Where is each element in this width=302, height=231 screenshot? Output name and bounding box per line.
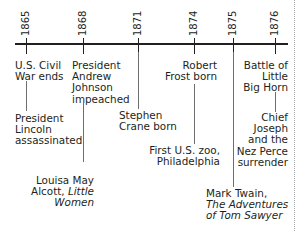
event-line: surrender (237, 157, 288, 168)
event-line: Philadelphia (149, 156, 220, 167)
event-line: of Tom Sawyer (206, 210, 288, 221)
event-lincoln-assassinated: President Lincoln assassinated (15, 113, 82, 147)
tick-1868 (83, 38, 84, 54)
event-johnson-impeached: President Andrew Johnson impeached (72, 60, 130, 105)
year-1865: 1865 (21, 11, 31, 36)
event-line: Women (31, 197, 94, 208)
event-line: Big Horn (243, 82, 288, 93)
event-line: War ends (15, 71, 64, 82)
event-twain-tom-sawyer: Mark Twain, The Adventures of Tom Sawyer (206, 188, 288, 222)
year-1868: 1868 (78, 11, 88, 36)
event-first-us-zoo: First U.S. zoo, Philadelphia (149, 145, 220, 167)
connector-1876 (275, 92, 276, 112)
connector-1871 (138, 52, 139, 109)
timeline-axis (15, 43, 288, 45)
dotted-border (294, 0, 295, 231)
event-line: impeached (72, 94, 130, 105)
event-line: and the (237, 134, 288, 145)
event-line: Johnson (72, 82, 130, 93)
event-chief-joseph-surrender: Chief Joseph and the Nez Perce surrender (237, 112, 288, 168)
event-line: Crane born (119, 121, 177, 132)
book-title: Little (68, 185, 94, 197)
book-title: The Adventures (206, 198, 288, 210)
connector-1875 (233, 52, 234, 187)
book-title: Women (54, 196, 94, 208)
connector-1868 (83, 103, 84, 162)
event-crane-born: Stephen Crane born (119, 110, 177, 132)
event-line: assassinated (15, 135, 82, 146)
tick-1876 (275, 38, 276, 54)
event-civil-war-ends: U.S. Civil War ends (15, 60, 64, 82)
event-text: Alcott, (31, 185, 68, 197)
connector-1874 (194, 84, 195, 144)
year-1874: 1874 (189, 11, 199, 36)
event-alcott-little-women: Louisa May Alcott, Little Women (31, 175, 94, 209)
book-title: of Tom Sawyer (206, 209, 282, 221)
year-1876: 1876 (270, 11, 280, 36)
tick-1865 (26, 38, 27, 54)
event-line: Frost born (165, 71, 217, 82)
tick-1874 (194, 38, 195, 54)
year-1875: 1875 (228, 11, 238, 36)
event-frost-born: Robert Frost born (165, 60, 217, 82)
event-little-big-horn: Battle of Little Big Horn (243, 60, 288, 94)
year-1871: 1871 (133, 11, 143, 36)
connector-1865 (26, 81, 27, 111)
